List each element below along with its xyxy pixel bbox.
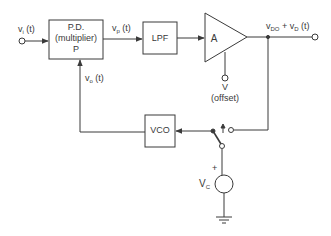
pd-output-label: vp (t): [112, 23, 131, 36]
vc-polarity-label: +: [212, 163, 217, 173]
phase-detector-label: P.D. (multiplier) P: [49, 22, 103, 55]
lpf-label: LPF: [143, 33, 177, 44]
amplifier-label: A: [205, 33, 223, 44]
output-terminal: [312, 34, 318, 40]
output-label: vDO + vD (t): [266, 21, 310, 34]
vc-source-label: VC: [199, 179, 210, 192]
input-label: vi (t): [18, 24, 35, 37]
vco-label: VCO: [145, 125, 175, 136]
vco-output-label: vo (t): [85, 73, 104, 86]
vc-source-circle: [215, 175, 233, 193]
offset-label: V (offset): [205, 82, 245, 104]
input-terminal: [19, 38, 25, 44]
